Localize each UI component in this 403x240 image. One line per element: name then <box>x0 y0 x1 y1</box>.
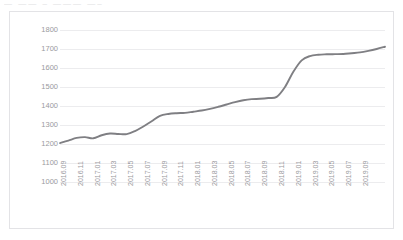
cropped-title-remnant: — —— – ——— —– <box>4 0 204 7</box>
gridline <box>60 182 385 183</box>
plot-area <box>60 30 385 182</box>
y-axis-tick-label: 1800 <box>41 26 58 34</box>
y-axis-tick-label: 1600 <box>41 64 58 72</box>
y-axis-tick-label: 1100 <box>42 159 58 167</box>
y-axis-tick-label: 1300 <box>41 121 58 129</box>
x-axis: 2016.092016.112017.012017.032017.052017.… <box>60 184 385 228</box>
y-axis-tick-label: 1400 <box>41 102 58 110</box>
line-series <box>60 30 385 182</box>
y-axis-tick-label: 1500 <box>41 83 58 91</box>
plot-wrapper: 180017001600150014001300120011001000 201… <box>10 12 393 228</box>
y-axis-tick-label: 1000 <box>41 178 58 186</box>
chart-screenshot: — —— – ——— —– 18001700160015001400130012… <box>0 0 403 240</box>
y-axis-tick-label: 1700 <box>41 45 58 53</box>
y-axis: 180017001600150014001300120011001000 <box>28 30 58 182</box>
y-axis-tick-label: 1200 <box>41 140 58 148</box>
chart-panel: 180017001600150014001300120011001000 201… <box>9 11 394 229</box>
